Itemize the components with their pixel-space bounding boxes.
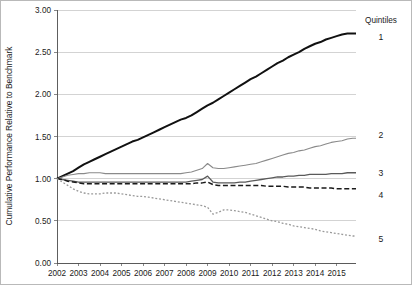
chart-container: 0.000.501.001.502.002.503.00 20022003200… [0, 0, 412, 285]
x-tick-label-2013: 2013 [285, 269, 304, 278]
x-tick-label-2002: 2002 [48, 269, 67, 278]
y-tick-label-3.00: 3.00 [35, 6, 51, 15]
legend-label-quintile-5: 5 [379, 234, 384, 244]
x-tick-label-2007: 2007 [155, 269, 174, 278]
line-chart: 0.000.501.001.502.002.503.00 20022003200… [1, 1, 412, 285]
x-tick-label-2005: 2005 [112, 269, 131, 278]
x-tick-label-2009: 2009 [198, 269, 217, 278]
x-tick-label-2015: 2015 [328, 269, 347, 278]
chart-background [1, 1, 412, 285]
y-tick-label-2.00: 2.00 [35, 90, 51, 99]
y-tick-label-0.00: 0.00 [35, 259, 51, 268]
x-tick-label-2003: 2003 [69, 269, 88, 278]
x-tick-label-2011: 2011 [242, 269, 260, 278]
x-tick-label-2006: 2006 [134, 269, 153, 278]
x-tick-label-2010: 2010 [220, 269, 239, 278]
legend-label-quintile-4: 4 [379, 190, 384, 200]
x-tick-label-2012: 2012 [263, 269, 282, 278]
y-tick-label-0.50: 0.50 [35, 217, 51, 226]
y-axis-title: Cumulative Performance Relative to Bench… [4, 46, 14, 226]
y-tick-label-1.00: 1.00 [35, 175, 51, 184]
legend-label-quintile-2: 2 [379, 130, 384, 140]
x-tick-label-2008: 2008 [177, 269, 196, 278]
legend-label-quintile-3: 3 [379, 168, 384, 178]
x-tick-label-2014: 2014 [306, 269, 325, 278]
y-tick-label-1.50: 1.50 [35, 133, 51, 142]
y-tick-label-2.50: 2.50 [35, 48, 51, 57]
x-tick-label-2004: 2004 [91, 269, 110, 278]
legend-label-quintile-1: 1 [379, 32, 384, 42]
legend-title: Quintiles [365, 16, 397, 25]
